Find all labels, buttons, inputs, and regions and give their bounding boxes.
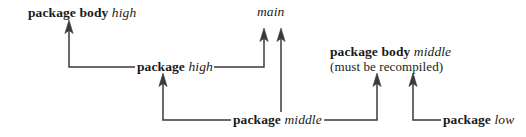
edge-high-body-depends-on-high-spec [69, 28, 135, 67]
node-keyword: package body [330, 44, 414, 59]
edge-high-spec-depends-on-middle-spec [163, 81, 231, 120]
node-keyword: package [137, 59, 188, 74]
node-package-middle: package middle [233, 112, 322, 127]
node-package-body-middle: package body middle (must be recompiled) [330, 44, 451, 74]
node-main: main [257, 4, 284, 19]
node-note: (must be recompiled) [330, 59, 451, 74]
node-package-body-high: package body high [28, 5, 136, 20]
node-name: middle [414, 44, 451, 59]
edge-middle-body-depends-on-low-spec [413, 81, 441, 120]
edge-main-depends-on-high-spec [214, 36, 264, 67]
node-name: low [494, 112, 514, 127]
node-name: middle [284, 112, 321, 127]
node-keyword: package [233, 112, 284, 127]
node-keyword: package body [28, 5, 112, 20]
dependency-diagram: package body high main package high pack… [0, 0, 526, 137]
node-name: high [188, 59, 212, 74]
edge-middle-body-depends-on-middle-spec [324, 81, 377, 120]
node-package-low: package low [443, 112, 514, 127]
node-keyword: package [443, 112, 494, 127]
node-package-high: package high [137, 59, 213, 74]
node-name: high [112, 5, 136, 20]
node-name: main [257, 4, 284, 19]
